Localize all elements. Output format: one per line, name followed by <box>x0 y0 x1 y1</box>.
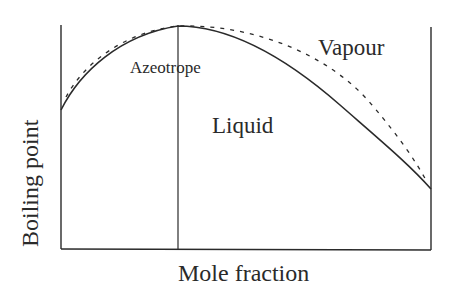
x-axis-line <box>61 249 431 250</box>
liquid-label: Liquid <box>212 113 274 138</box>
vapour-label: Vapour <box>318 35 385 60</box>
azeotrope-label: Azeotrope <box>130 58 201 77</box>
azeotrope-phase-diagram: Azeotrope Vapour Liquid Mole fraction Bo… <box>0 0 453 296</box>
y-axis-title: Boiling point <box>17 119 43 247</box>
x-axis-title: Mole fraction <box>178 260 309 286</box>
